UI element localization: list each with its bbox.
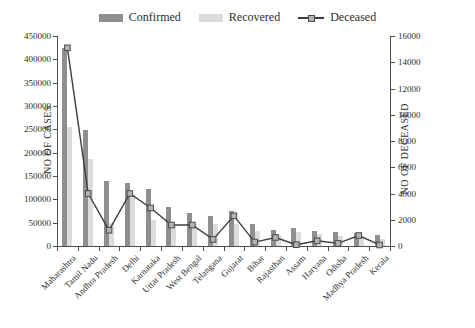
deceased-marker	[210, 237, 216, 243]
deceased-marker	[377, 242, 383, 248]
deceased-marker	[189, 222, 195, 228]
deceased-marker	[85, 191, 91, 197]
deceased-marker	[335, 241, 341, 247]
deceased-marker	[231, 213, 237, 219]
deceased-marker	[127, 191, 133, 197]
deceased-marker	[294, 242, 300, 248]
deceased-marker	[273, 235, 279, 241]
deceased-line	[67, 48, 379, 245]
deceased-marker	[169, 222, 175, 228]
covid-state-chart: Confirmed Recovered Deceased NO OF CASES…	[0, 0, 475, 328]
deceased-marker	[252, 239, 258, 245]
deceased-marker	[65, 45, 71, 51]
deceased-marker	[106, 227, 112, 233]
deceased-marker	[148, 205, 154, 211]
deceased-marker	[356, 233, 362, 239]
deceased-line-layer	[0, 0, 475, 328]
deceased-marker	[314, 238, 320, 244]
